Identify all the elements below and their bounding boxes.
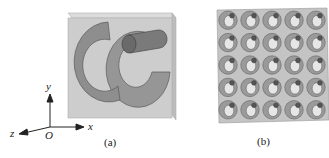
cell-cylinder — [318, 36, 323, 41]
array-cell — [241, 11, 259, 29]
cell-cylinder — [274, 81, 279, 86]
cell-cylinder — [252, 103, 257, 108]
box — [68, 13, 176, 120]
cell-cylinder — [252, 36, 257, 41]
cell-cylinder — [230, 81, 235, 86]
cell-cylinder — [230, 103, 235, 108]
box-top-face — [68, 13, 176, 18]
cylinder-end-cap — [122, 35, 136, 53]
array-cell — [219, 11, 237, 29]
array-cell — [285, 101, 303, 119]
cell-cylinder — [296, 81, 301, 86]
box-side-face — [172, 13, 176, 120]
cell-cylinder — [318, 13, 323, 18]
cell-cylinder — [230, 36, 235, 41]
caption-b: (b) — [257, 135, 270, 147]
cell-cylinder — [318, 81, 323, 86]
array-cell — [241, 33, 259, 51]
cell-cylinder — [296, 103, 301, 108]
x-axis-label: x — [88, 120, 93, 132]
cell-cylinder — [274, 36, 279, 41]
array-cell — [241, 78, 259, 96]
array-cell — [263, 101, 281, 119]
cell-cylinder — [318, 58, 323, 63]
array-cell — [285, 78, 303, 96]
array-cell — [219, 101, 237, 119]
cell-cylinder — [296, 13, 301, 18]
cell-cylinder — [318, 103, 323, 108]
cell-cylinder — [296, 36, 301, 41]
array-cell — [307, 11, 325, 29]
resonator-array — [217, 8, 329, 123]
array-cell — [263, 78, 281, 96]
cell-cylinder — [274, 13, 279, 18]
x-arrow-icon — [76, 124, 84, 130]
array-cell — [219, 56, 237, 74]
array-cell — [307, 78, 325, 96]
array-cell — [219, 78, 237, 96]
array-cell — [307, 56, 325, 74]
cell-cylinder — [274, 103, 279, 108]
array-cell — [219, 33, 237, 51]
array-cell — [307, 101, 325, 119]
cell-cylinder — [252, 13, 257, 18]
y-arrow-icon — [47, 94, 53, 102]
cell-cylinder — [252, 58, 257, 63]
cell-cylinder — [274, 58, 279, 63]
cell-cylinder — [252, 81, 257, 86]
array-cell — [285, 33, 303, 51]
cell-cylinder — [230, 58, 235, 63]
caption-a: (a) — [104, 136, 116, 148]
array-cell — [263, 33, 281, 51]
y-axis-label: y — [46, 80, 51, 92]
array-cell — [307, 33, 325, 51]
z-arrow-icon — [19, 129, 28, 135]
array-cell — [241, 56, 259, 74]
cell-cylinder — [230, 13, 235, 18]
array-cell — [263, 56, 281, 74]
array-cell — [263, 11, 281, 29]
array-cell — [285, 11, 303, 29]
array-cell — [285, 56, 303, 74]
origin-label: O — [45, 129, 53, 141]
array-cell — [241, 101, 259, 119]
cell-cylinder — [296, 58, 301, 63]
z-axis-label: z — [10, 127, 14, 139]
